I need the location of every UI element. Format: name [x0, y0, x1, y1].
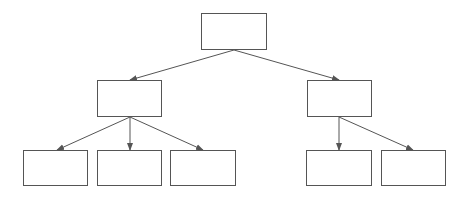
node-box-right-2 [381, 150, 446, 186]
arrow-root-to-left [130, 50, 234, 80]
arrow-left-to-left-3 [130, 117, 203, 150]
node-box-root [201, 13, 267, 50]
node-box-left-3 [170, 150, 236, 186]
node-box-right [307, 80, 372, 117]
arrow-left-to-left-1 [57, 117, 130, 150]
node-box-right-1 [306, 150, 372, 186]
node-box-left [97, 80, 162, 117]
arrow-root-to-right [234, 50, 339, 80]
arrow-right-to-right-2 [339, 117, 413, 150]
node-box-left-1 [23, 150, 88, 186]
node-box-left-2 [97, 150, 162, 186]
